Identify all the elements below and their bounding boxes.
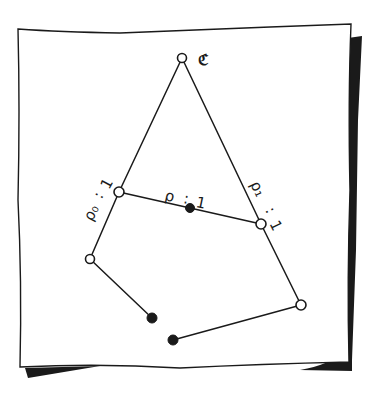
- node-c-top: [178, 54, 187, 63]
- node-right-lower: [296, 300, 306, 310]
- paper-shadow-bottom-left: [25, 366, 100, 378]
- graph-diagram: ℭ ρ₀ : 1 ρ : 1 ρ₁ : 1: [0, 0, 377, 394]
- node-left-lower: [86, 255, 95, 264]
- node-bottom-dot: [168, 335, 178, 345]
- node-rho1: [256, 219, 266, 229]
- node-rho0: [114, 187, 124, 197]
- node-bottom-left-dot: [147, 313, 157, 323]
- label-c: ℭ: [198, 51, 209, 69]
